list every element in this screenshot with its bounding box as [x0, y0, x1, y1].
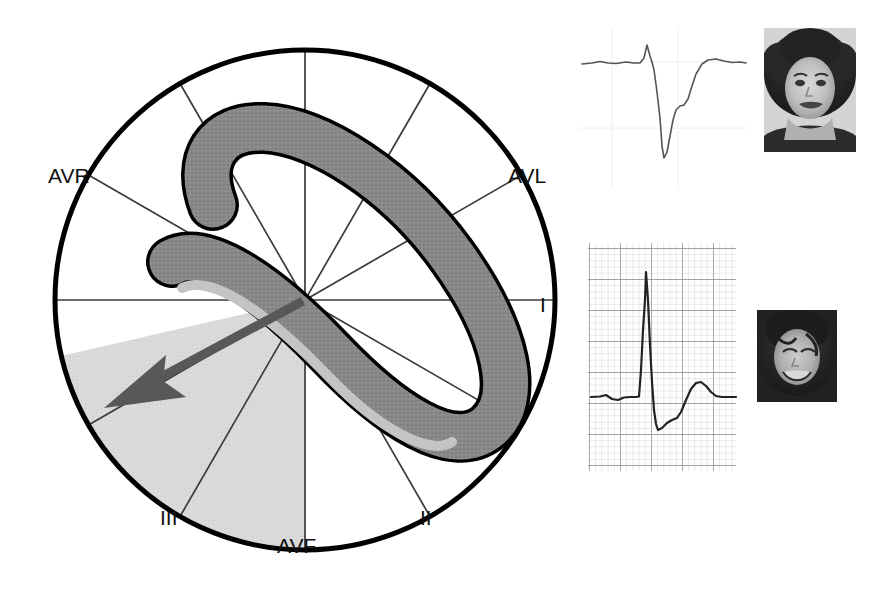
figure-canvas: AVR AVL I II III AVF: [0, 0, 893, 589]
lead-label-i: I: [540, 293, 546, 316]
lead-label-iii: III: [160, 506, 178, 529]
ecg-complex-top: [578, 28, 746, 188]
lead-label-avf: AVF: [277, 534, 316, 557]
lead-label-avl: AVL: [508, 164, 546, 187]
lead-label-ii: II: [420, 506, 432, 529]
page-background: [0, 0, 893, 589]
ecg-complex-bottom: [588, 243, 736, 471]
lead-label-avr: AVR: [48, 164, 90, 187]
patient-portrait-bottom: [757, 308, 837, 402]
patient-portrait-top: [762, 28, 858, 152]
